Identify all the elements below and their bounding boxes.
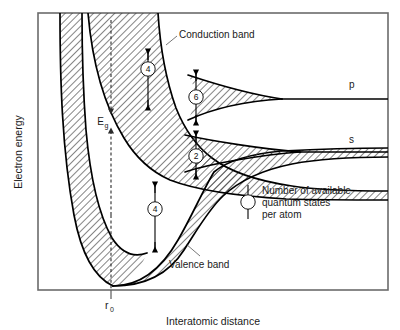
conduction-band-leader	[166, 36, 177, 45]
band-diagram-svg: 4 6 2 4 E g Conduction band Valence band…	[0, 0, 400, 330]
valence-band-label: Valence band	[169, 259, 229, 270]
state-count-6: 6	[189, 90, 203, 104]
count-value: 4	[146, 64, 151, 74]
band-gap-label: E g	[97, 116, 108, 130]
valence-band-leader	[186, 244, 200, 256]
legend-line-3: per atom	[262, 209, 301, 220]
count-value: 4	[153, 204, 158, 214]
s-level-label: s	[349, 134, 354, 145]
x-tick-label: r 0	[105, 299, 114, 313]
x-tick-subscript: 0	[110, 306, 114, 313]
conduction-band-label: Conduction band	[179, 29, 255, 40]
x-axis-label: Interatomic distance	[166, 315, 260, 327]
p-level-label: p	[349, 79, 355, 90]
x-tick-symbol: r	[105, 299, 109, 311]
count-value: 6	[194, 92, 199, 102]
state-count-4-lower: 4	[148, 202, 162, 216]
legend-line-1: Number of available	[262, 185, 351, 196]
state-count-4-upper: 4	[141, 62, 155, 76]
legend-circle-icon	[241, 195, 255, 209]
band-gap-subscript: g	[105, 122, 109, 130]
band-gap-symbol: E	[97, 116, 104, 127]
state-count-2: 2	[189, 149, 203, 163]
count-value: 2	[194, 151, 199, 161]
y-axis-label: Electron energy	[12, 114, 24, 188]
legend-line-2: quantum states	[262, 197, 330, 208]
figure-container: 4 6 2 4 E g Conduction band Valence band…	[0, 0, 400, 330]
